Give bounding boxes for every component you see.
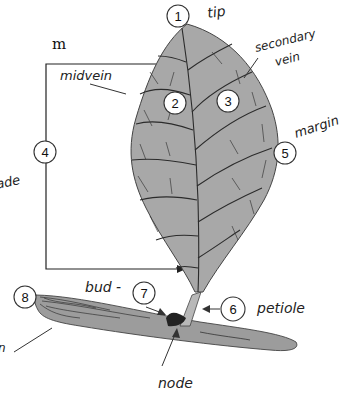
petiole-label: petiole (256, 300, 305, 316)
svg-text:3: 3 (224, 94, 231, 109)
partial-text-top-left: m (52, 35, 66, 53)
secondary-vein-label-line2: vein (273, 49, 301, 69)
secondary-vein-annotation: secondary vein (253, 26, 318, 69)
stem-pointer (14, 328, 52, 352)
leaf-diagram: m ade n (0, 0, 340, 398)
label-4-blade: 4 (34, 141, 56, 163)
svg-text:4: 4 (41, 145, 48, 160)
label-5-margin: 5 margin (274, 112, 340, 164)
svg-text:6: 6 (229, 302, 236, 317)
arrow-head-icon (202, 305, 210, 313)
label-1-tip: 1 tip (167, 3, 227, 27)
midvein-label: midvein (60, 68, 112, 83)
svg-text:8: 8 (21, 290, 28, 305)
partial-text-blade: ade (0, 172, 21, 192)
label-2: 2 (164, 92, 186, 114)
bud-label: bud - (85, 279, 121, 295)
label-8: 8 (14, 286, 36, 308)
tip-label: tip (206, 3, 226, 21)
svg-text:2: 2 (171, 96, 178, 111)
secondary-vein-label-line1: secondary (253, 26, 318, 55)
node-label: node (158, 375, 193, 391)
label-3: 3 (217, 90, 239, 112)
margin-label: margin (292, 112, 340, 141)
svg-text:7: 7 (140, 286, 147, 301)
svg-text:5: 5 (281, 146, 288, 161)
label-6-petiole: 6 petiole (202, 297, 305, 321)
svg-text:1: 1 (174, 9, 181, 24)
midvein-annotation: midvein (60, 68, 126, 94)
partial-text-stem: n (0, 341, 6, 355)
